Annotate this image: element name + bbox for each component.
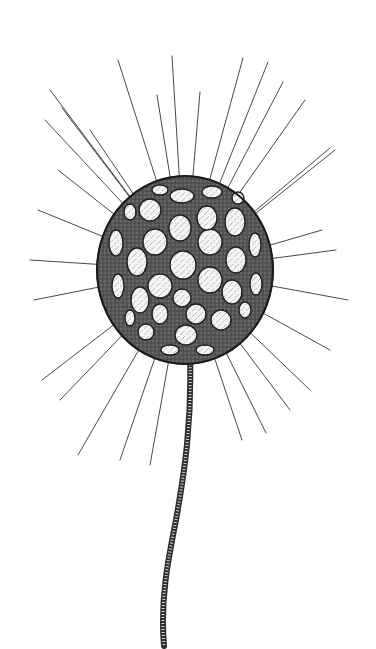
protist-illustration: [0, 0, 376, 649]
stalk: [163, 355, 190, 646]
lattice-shell: [97, 176, 273, 364]
